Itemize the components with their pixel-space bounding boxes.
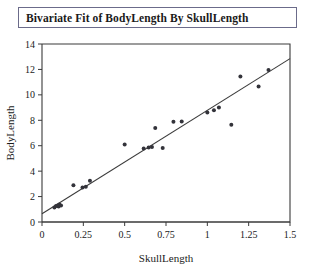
x-tick-label: 1 [205,229,210,240]
data-point [123,142,127,146]
scatter-plot-svg: 02468101214 00.250.50.7511.251.5 SkullLe… [0,30,315,279]
x-tick-label: 0.5 [118,229,131,240]
data-point [180,120,184,124]
x-tick-label: 0.25 [75,229,93,240]
data-point [205,110,209,114]
page-title: Bivariate Fit of BodyLength By SkullLeng… [19,12,248,24]
bivariate-fit-plot: 02468101214 00.250.50.7511.251.5 SkullLe… [0,30,315,279]
data-point [142,147,146,151]
data-point [217,106,221,110]
y-tick-label: 8 [30,115,35,126]
data-point [257,85,261,89]
data-point [212,108,216,112]
y-axis-label: BodyLength [4,105,16,160]
data-point [71,183,75,187]
data-point [153,126,157,130]
data-point [150,145,154,149]
data-point [267,68,271,72]
y-tick-label: 12 [25,64,35,75]
x-tick-label: 0 [40,229,45,240]
x-tick-label: 1.25 [240,229,258,240]
data-point [59,203,63,207]
x-tick-label: 1.5 [284,229,297,240]
data-point [229,123,233,127]
data-point [84,185,88,189]
data-point [238,74,242,78]
regression-fit-line [42,59,290,214]
data-point [147,146,151,150]
data-point [81,185,85,189]
y-tick-label: 2 [30,191,35,202]
y-tick-label: 4 [30,166,35,177]
x-axis-tick-group: 00.250.50.7511.251.5 [40,222,297,240]
data-point [171,120,175,124]
y-tick-label: 6 [30,140,35,151]
y-tick-label: 10 [25,89,35,100]
plot-frame [42,44,290,222]
y-axis-tick-group: 02468101214 [25,39,42,228]
y-tick-label: 0 [30,217,35,228]
data-point [88,179,92,183]
y-tick-label: 14 [25,39,35,50]
data-point [161,146,165,150]
x-tick-label: 0.75 [157,229,175,240]
title-box: Bivariate Fit of BodyLength By SkullLeng… [18,7,297,28]
x-axis-label: SkullLength [139,252,194,264]
